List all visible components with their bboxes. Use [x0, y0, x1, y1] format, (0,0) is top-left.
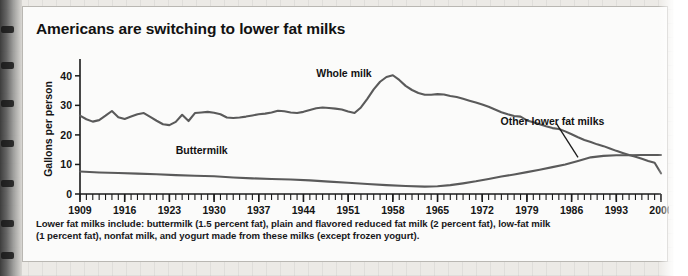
footnote-line-2: (1 percent fat), nonfat milk, and yogurt… — [36, 230, 656, 242]
y-tick-label: 10 — [60, 158, 72, 170]
x-tick-label: 1986 — [560, 204, 584, 216]
x-tick-label: 1937 — [247, 204, 271, 216]
series-lines — [80, 75, 661, 186]
x-tick-label: 1972 — [471, 204, 495, 216]
footnote-line-1: Lower fat milks include: buttermilk (1.5… — [36, 218, 656, 230]
y-axis-label: Gallons per person — [42, 81, 54, 177]
y-axis: 010203040Gallons per person — [42, 59, 80, 200]
figure-inner: Americans are switching to lower fat mil… — [23, 7, 667, 261]
x-tick-label: 1909 — [68, 204, 92, 216]
x-axis: 1909191619231930193719441951195819651972… — [68, 194, 669, 216]
series-annotation-label: Whole milk — [316, 67, 372, 79]
series-annotation-label: Buttermilk — [176, 144, 228, 156]
footnote: Lower fat milks include: buttermilk (1.5… — [36, 218, 656, 243]
annotation-leader-line — [556, 124, 578, 158]
figure-card: Americans are switching to lower fat mil… — [22, 6, 668, 262]
x-tick-label: 1965 — [426, 204, 450, 216]
page-right-fade — [658, 0, 688, 276]
binding-marks — [0, 0, 22, 276]
y-tick-label: 40 — [60, 70, 72, 82]
y-tick-label: 30 — [60, 99, 72, 111]
x-tick-label: 1930 — [202, 204, 226, 216]
series-line — [80, 155, 661, 187]
y-tick-label: 20 — [60, 129, 72, 141]
x-tick-label: 1944 — [292, 204, 316, 216]
y-tick-label: 0 — [66, 188, 72, 200]
series-annotations: Whole milkButtermilkOther lower fat milk… — [176, 67, 605, 157]
x-tick-label: 1916 — [113, 204, 137, 216]
x-tick-label: 1951 — [336, 204, 360, 216]
x-tick-label: 1993 — [605, 204, 629, 216]
series-annotation-label: Other lower fat milks — [501, 115, 605, 127]
x-tick-label: 1923 — [158, 204, 182, 216]
x-tick-label: 1979 — [515, 204, 539, 216]
scanned-page: Americans are switching to lower fat mil… — [0, 0, 688, 276]
x-tick-label: 1958 — [381, 204, 405, 216]
